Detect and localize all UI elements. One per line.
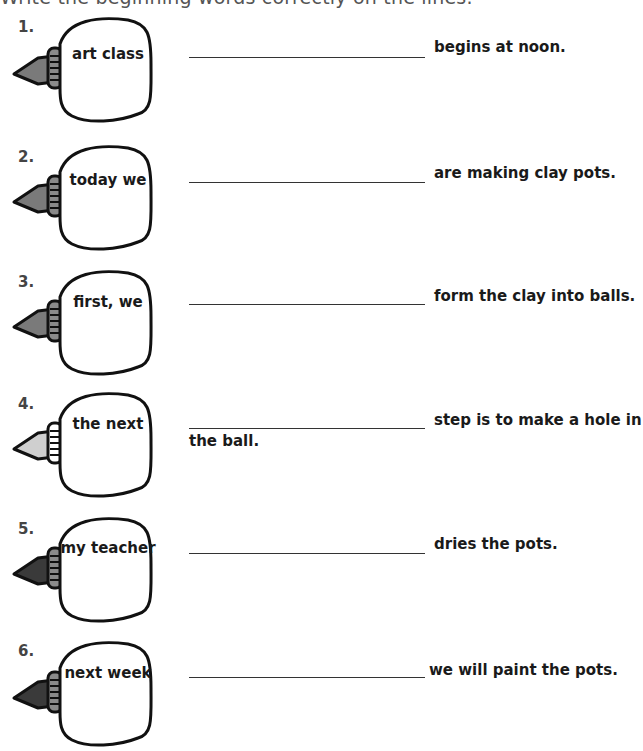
sentence-ending: we will paint the pots. [429, 661, 618, 679]
answer-line[interactable] [189, 428, 425, 429]
bottle-label: my teacher [60, 539, 156, 557]
glue-bottle-icon [8, 638, 158, 748]
glue-bottle-icon [8, 514, 158, 624]
exercise-item-4: 4. the next step is to make a hole in th… [0, 395, 643, 520]
bottle-label: today we [60, 171, 156, 189]
answer-line[interactable] [189, 304, 425, 305]
answer-line[interactable] [189, 57, 425, 58]
instructions-text: Write the beginning words correctly on t… [0, 0, 473, 8]
exercise-item-2: 2. today we are making clay pots. [0, 148, 643, 273]
sentence-continuation: the ball. [189, 432, 259, 450]
answer-line[interactable] [189, 182, 425, 183]
glue-bottle-icon [8, 14, 158, 124]
glue-bottle-icon [8, 267, 158, 377]
sentence-ending: step is to make a hole in [434, 411, 642, 429]
bottle-label: art class [60, 45, 156, 63]
sentence-ending: are making clay pots. [434, 164, 616, 182]
bottle-label: the next [60, 415, 156, 433]
exercise-item-6: 6. next week we will paint the pots. [0, 642, 643, 751]
answer-line[interactable] [189, 553, 425, 554]
sentence-ending: dries the pots. [434, 535, 558, 553]
glue-bottle-icon [8, 389, 158, 499]
sentence-ending: begins at noon. [434, 38, 566, 56]
exercise-item-3: 3. first, we form the clay into balls. [0, 273, 643, 398]
answer-line[interactable] [189, 677, 425, 678]
exercise-item-5: 5. my teacher dries the pots. [0, 520, 643, 645]
bottle-label: next week [60, 664, 156, 682]
exercise-item-1: 1. art class begins at noon. [0, 18, 643, 143]
glue-bottle-icon [8, 142, 158, 252]
bottle-label: first, we [60, 293, 156, 311]
sentence-ending: form the clay into balls. [434, 287, 635, 305]
